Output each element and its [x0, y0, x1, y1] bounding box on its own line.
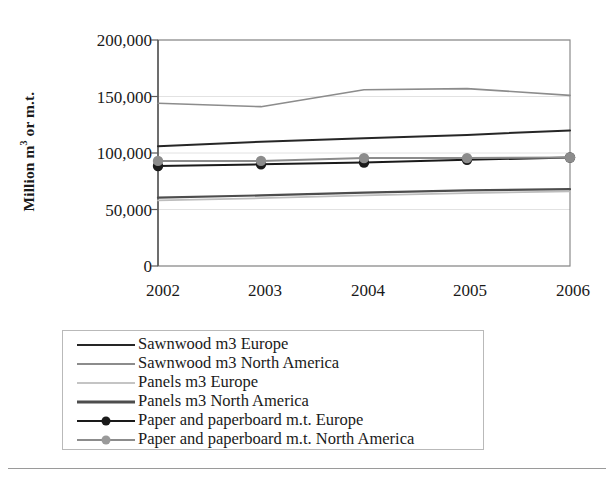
series-marker-5-2 — [359, 153, 369, 163]
figure-container: Million m3 or m.t. 200,000 150,000 100,0… — [0, 0, 614, 488]
legend-line-icon — [77, 399, 135, 404]
legend-marker-circle-icon — [102, 435, 111, 444]
series-line-0 — [158, 130, 570, 146]
legend-marker-circle-icon — [102, 416, 111, 425]
series-marker-5-3 — [462, 153, 472, 163]
legend-item-paper-europe: Paper and paperboard m.t. Europe — [63, 411, 483, 430]
legend-item-paper-north-america: Paper and paperboard m.t. North America — [63, 430, 483, 449]
legend-item-sawnwood-europe: Sawnwood m3 Europe — [63, 335, 483, 354]
line-chart-svg — [0, 0, 614, 318]
legend-label-sawnwood-north-america: Sawnwood m3 North America — [138, 355, 339, 372]
legend-swatch-sawnwood-europe — [77, 338, 135, 352]
series-line-3 — [158, 189, 570, 197]
axis-ticks — [151, 40, 158, 266]
data-series-layer — [153, 89, 575, 201]
legend-label-panels-europe: Panels m3 Europe — [138, 374, 258, 391]
chart-plot-region: Million m3 or m.t. 200,000 150,000 100,0… — [0, 0, 614, 318]
legend-item-panels-europe: Panels m3 Europe — [63, 373, 483, 392]
legend-label-paper-europe: Paper and paperboard m.t. Europe — [138, 412, 363, 429]
page-divider-rule — [8, 468, 606, 469]
series-marker-5-0 — [153, 156, 163, 166]
series-marker-5-4 — [565, 152, 575, 162]
legend-swatch-sawnwood-north-america — [77, 357, 135, 371]
series-marker-5-1 — [256, 156, 266, 166]
legend-swatch-panels-europe — [77, 376, 135, 390]
legend-item-sawnwood-north-america: Sawnwood m3 North America — [63, 354, 483, 373]
series-line-1 — [158, 89, 570, 107]
legend-line-icon — [77, 381, 135, 385]
legend-swatch-panels-north-america — [77, 395, 135, 409]
legend-label-panels-north-america: Panels m3 North America — [138, 393, 309, 410]
chart-legend: Sawnwood m3 Europe Sawnwood m3 North Ame… — [62, 330, 484, 450]
legend-label-paper-north-america: Paper and paperboard m.t. North America — [138, 431, 414, 448]
legend-line-icon — [77, 343, 135, 347]
legend-swatch-paper-europe — [77, 414, 135, 428]
legend-swatch-paper-north-america — [77, 433, 135, 447]
legend-label-sawnwood-europe: Sawnwood m3 Europe — [138, 336, 288, 353]
legend-line-icon — [77, 362, 135, 366]
legend-item-panels-north-america: Panels m3 North America — [63, 392, 483, 411]
